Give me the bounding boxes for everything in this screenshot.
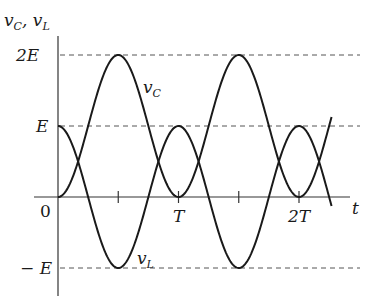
vl-label: vL <box>137 248 154 271</box>
y-tick-e: E <box>35 116 49 136</box>
vc-label: vC <box>143 77 162 100</box>
y-axis-label: vC, vL <box>4 10 50 33</box>
y-tick-neg-e: − E <box>20 258 53 278</box>
dashed-reference-lines <box>60 55 360 268</box>
x-tick-t: T <box>173 206 186 226</box>
x-axis-label: t <box>352 198 359 218</box>
lc-voltage-diagram: vC, vL 2E E − E 0 T 2T t vC vL <box>0 0 382 305</box>
origin-label: 0 <box>40 201 51 221</box>
y-tick-2e: 2E <box>15 45 40 65</box>
x-tick-2t: 2T <box>287 206 312 226</box>
